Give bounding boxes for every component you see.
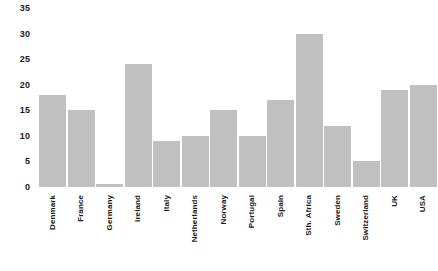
bar-slot: [352, 0, 381, 187]
bars-layer: [36, 0, 431, 187]
bar: [125, 64, 152, 187]
x-label-slot: Spain: [266, 187, 295, 271]
bar: [324, 126, 351, 187]
x-label-slot: Germany: [95, 187, 124, 271]
bar-slot: [295, 0, 324, 187]
x-tick-label: UK: [391, 195, 399, 207]
bar: [68, 110, 95, 187]
x-tick-label: Italy: [163, 195, 171, 212]
y-tick-label: 25: [20, 55, 30, 64]
y-tick-label: 20: [20, 80, 30, 89]
y-tick-label: 10: [20, 131, 30, 140]
y-tick-label: 30: [20, 29, 30, 38]
x-tick-label: Spain: [277, 195, 285, 217]
bar: [381, 90, 408, 187]
bar-slot: [323, 0, 352, 187]
bar: [210, 110, 237, 187]
bar-slot: [238, 0, 267, 187]
x-label-slot: Sth. Africa: [295, 187, 324, 271]
x-label-slot: Norway: [209, 187, 238, 271]
x-label-slot: Netherlands: [181, 187, 210, 271]
x-tick-label: Portugal: [248, 195, 256, 228]
bar: [353, 161, 380, 187]
bar: [153, 141, 180, 187]
x-label-slot: UK: [380, 187, 409, 271]
bar: [182, 136, 209, 187]
bar-slot: [67, 0, 96, 187]
y-axis: 05101520253035: [0, 0, 36, 271]
bar-slot: [209, 0, 238, 187]
y-tick-label: 5: [25, 157, 30, 166]
x-tick-label: Denmark: [49, 195, 57, 230]
x-label-slot: Switzerland: [352, 187, 381, 271]
x-label-slot: USA: [409, 187, 438, 271]
bar-slot: [95, 0, 124, 187]
bar-slot: [181, 0, 210, 187]
bar: [410, 85, 437, 187]
x-tick-label: Germany: [106, 195, 114, 230]
x-label-slot: Portugal: [238, 187, 267, 271]
bar: [267, 100, 294, 187]
bar-slot: [38, 0, 67, 187]
x-tick-label: Sweden: [334, 195, 342, 226]
x-tick-label: Switzerland: [362, 195, 370, 241]
x-label-slot: France: [67, 187, 96, 271]
x-tick-label: USA: [419, 195, 427, 212]
x-tick-label: Norway: [220, 195, 228, 225]
bar-slot: [124, 0, 153, 187]
bar: [296, 34, 323, 187]
y-tick-label: 15: [20, 106, 30, 115]
bar-slot: [380, 0, 409, 187]
x-tick-label: Sth. Africa: [305, 195, 313, 236]
y-tick-label: 35: [20, 4, 30, 13]
bar-slot: [266, 0, 295, 187]
bar-slot: [152, 0, 181, 187]
bar: [39, 95, 66, 187]
x-label-slot: Italy: [152, 187, 181, 271]
plot-area: DenmarkFranceGermanyIrelandItalyNetherla…: [36, 0, 431, 271]
x-axis-labels: DenmarkFranceGermanyIrelandItalyNetherla…: [36, 187, 431, 271]
x-label-slot: Ireland: [124, 187, 153, 271]
x-label-slot: Sweden: [323, 187, 352, 271]
x-tick-label: Ireland: [134, 195, 142, 222]
bar: [239, 136, 266, 187]
x-tick-label: France: [77, 195, 85, 222]
bar-slot: [409, 0, 438, 187]
y-tick-label: 0: [25, 183, 30, 192]
x-label-slot: Denmark: [38, 187, 67, 271]
x-tick-label: Netherlands: [191, 195, 199, 242]
